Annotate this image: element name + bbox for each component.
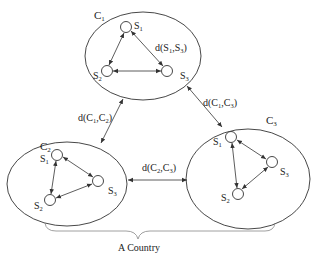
node-c3-s3-label: S3	[280, 166, 289, 178]
cluster-c3-label: C3	[266, 114, 277, 128]
country-brace: A Country	[45, 223, 275, 253]
node-c2-s3	[93, 176, 104, 187]
cluster-c3: C3 S1 S2 S3	[186, 114, 310, 229]
cluster-c1-label: C1	[94, 9, 105, 23]
node-c2-s2-label: S2	[34, 200, 43, 212]
node-c1-s3-label: S3	[180, 70, 189, 82]
edge-label-c2-c3: d(C2,C3)	[142, 162, 176, 174]
edge-label-c1-c2: d(C1,C2)	[78, 112, 112, 124]
node-c3-s1	[226, 132, 237, 143]
diagram-canvas: C1 S1 S2 S3 d(S1,S3) C2 S1 S2 S3	[0, 0, 316, 262]
node-c3-s2	[233, 189, 244, 200]
edge-c3-s2-s3	[242, 167, 268, 189]
network-diagram: C1 S1 S2 S3 d(S1,S3) C2 S1 S2 S3	[0, 0, 316, 262]
node-c1-s3	[162, 66, 173, 77]
node-c1-s1	[121, 22, 132, 33]
edge-c3-s1-s3	[237, 140, 266, 159]
node-c2-s1-label: S1	[40, 153, 49, 165]
edge-c2-s2-s3	[56, 184, 92, 198]
node-c3-s2-label: S2	[221, 192, 230, 204]
cluster-c3-boundary	[186, 129, 310, 229]
edge-c1-s1-s2	[109, 33, 124, 65]
edge-label-s1-s3: d(S1,S3)	[155, 42, 187, 54]
edge-c2-s1-s2	[51, 161, 56, 194]
cluster-c2-label: C2	[40, 140, 51, 154]
node-c2-s1	[52, 150, 63, 161]
node-c3-s3	[267, 157, 278, 168]
node-c3-s1-label: S1	[213, 136, 222, 148]
node-c1-s1-label: S1	[134, 20, 143, 32]
edge-c2-s1-s3	[63, 157, 93, 177]
country-caption: A Country	[118, 242, 160, 253]
cluster-c2-boundary	[7, 142, 127, 226]
node-c1-s2-label: S2	[93, 70, 102, 82]
cluster-c1-boundary	[85, 12, 201, 100]
inter-cluster-edges: d(C1,C2) d(C1,C3) d(C2,C3)	[78, 86, 237, 180]
node-c1-s2	[102, 66, 113, 77]
cluster-c2: C2 S1 S2 S3	[7, 140, 127, 226]
node-c2-s2	[45, 195, 56, 206]
node-c2-s3-label: S3	[108, 185, 117, 197]
edge-c3-s1-s2	[232, 143, 237, 188]
edge-label-c1-c3: d(C1,C3)	[203, 97, 237, 109]
cluster-c1: C1 S1 S2 S3 d(S1,S3)	[85, 9, 201, 100]
